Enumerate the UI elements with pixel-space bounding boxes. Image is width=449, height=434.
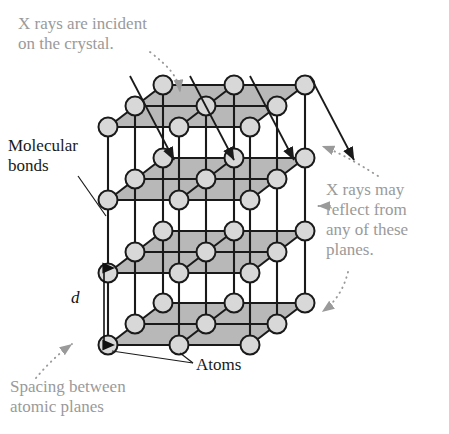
annotation-atoms: Atoms [196, 355, 241, 375]
atom [225, 222, 244, 241]
annotation-spacing-between-planes: Spacing between atomic planes [10, 377, 126, 417]
atom [170, 264, 189, 283]
atom [296, 294, 315, 313]
annotation-xray-reflect: X rays may reflect from any of these pla… [326, 180, 408, 260]
atom [197, 315, 216, 334]
atom [268, 315, 287, 334]
atom [225, 76, 244, 95]
atom [268, 243, 287, 262]
atom [296, 149, 315, 168]
atom [225, 149, 244, 168]
atom [241, 336, 260, 355]
atom [241, 264, 260, 283]
xray-crystal-diagram: X rays are incident on the crystal. Mole… [0, 0, 449, 434]
atom [197, 243, 216, 262]
annotation-xray-incident: X rays are incident on the crystal. [18, 14, 147, 54]
atom [225, 294, 244, 313]
atom [154, 222, 173, 241]
atom [268, 97, 287, 116]
atom [126, 243, 145, 262]
atom [197, 170, 216, 189]
atom [268, 170, 287, 189]
atom [296, 222, 315, 241]
atom [170, 336, 189, 355]
atom [170, 118, 189, 137]
atom [154, 294, 173, 313]
atom [126, 315, 145, 334]
atom [99, 118, 118, 137]
atom [154, 76, 173, 95]
atom [99, 264, 118, 283]
atom [241, 118, 260, 137]
atom [170, 191, 189, 210]
atom [126, 170, 145, 189]
annotation-molecular-bonds: Molecular bonds [8, 136, 78, 176]
label-spacing-symbol-d: d [71, 288, 80, 308]
atom [99, 191, 118, 210]
atom [241, 191, 260, 210]
